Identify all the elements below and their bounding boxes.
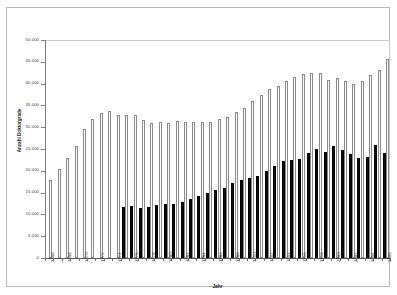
bar-total — [352, 84, 355, 258]
bar-group — [138, 40, 146, 258]
bar-total — [327, 80, 330, 258]
x-axis-tick — [247, 258, 248, 261]
y-axis-tick-label: 20.000 — [9, 168, 39, 172]
x-axis-tick — [112, 258, 113, 261]
x-axis-tick — [171, 258, 172, 261]
x-axis-tick — [272, 258, 273, 261]
x-axis-tick — [121, 258, 122, 261]
bar-total — [369, 75, 372, 258]
x-axis-tick — [154, 258, 155, 261]
x-axis-tick — [365, 258, 366, 261]
bar-group — [154, 40, 162, 258]
bar-group — [53, 40, 61, 258]
bar-group — [121, 40, 129, 258]
x-axis-tick — [306, 258, 307, 261]
plot-area — [45, 40, 390, 258]
x-axis-tick — [104, 258, 105, 261]
bar-total — [268, 89, 271, 258]
bar-total — [302, 74, 305, 258]
bar-total — [243, 108, 246, 258]
x-axis-tick — [281, 258, 282, 261]
bar-group — [348, 40, 356, 258]
bar-total — [142, 120, 145, 258]
bar-total — [201, 122, 204, 258]
y-axis-line — [45, 40, 46, 259]
bar-group — [79, 40, 87, 258]
bar-total — [235, 112, 238, 258]
bar-total — [218, 119, 221, 258]
x-axis-tick — [289, 258, 290, 261]
x-axis-tick — [222, 258, 223, 261]
x-axis-tick — [70, 258, 71, 261]
x-axis-tick — [297, 258, 298, 261]
y-axis-tick-label: 45.000 — [9, 59, 39, 63]
bar-total — [100, 113, 103, 258]
y-axis-tick-label-wrap: 30.000 — [7, 125, 39, 131]
x-axis-tick — [314, 258, 315, 261]
y-axis-tick-label: 30.000 — [9, 125, 39, 129]
y-axis-tick-label: 50.000 — [9, 38, 39, 42]
x-axis-tick — [239, 258, 240, 261]
bar-group — [331, 40, 339, 258]
bar-group — [356, 40, 364, 258]
bar-total — [260, 95, 263, 259]
bar-group — [373, 40, 381, 258]
bar-total — [336, 78, 339, 258]
bar-group — [255, 40, 263, 258]
bar-group — [323, 40, 331, 258]
y-axis-tick-label-wrap: 15.000 — [7, 190, 39, 196]
x-axis-tick — [356, 258, 357, 261]
x-axis-tick — [382, 258, 383, 261]
bar-total — [378, 70, 381, 258]
bar-group — [163, 40, 171, 258]
y-axis-tick-label-wrap: 50.000 — [7, 38, 39, 44]
bar-total — [91, 119, 94, 258]
x-axis-tick — [87, 258, 88, 261]
bar-group — [247, 40, 255, 258]
x-axis-tick — [180, 258, 181, 261]
x-axis-tick — [62, 258, 63, 261]
bar-group — [188, 40, 196, 258]
x-axis-tick — [373, 258, 374, 261]
bar-group — [205, 40, 213, 258]
bar-total — [293, 77, 296, 258]
x-axis-tick — [188, 258, 189, 261]
bar-total — [125, 115, 128, 258]
bar-total — [226, 117, 229, 258]
figure-frame: Anzahl Doktorgrade 50.00045.00040.00035.… — [6, 7, 390, 287]
bar-total — [66, 158, 69, 258]
y-axis-tick-label-wrap: 10.000 — [7, 212, 39, 218]
x-axis-tick — [348, 258, 349, 261]
bar-total — [192, 122, 195, 258]
x-axis-tick — [163, 258, 164, 261]
bar-group — [87, 40, 95, 258]
bar-total — [75, 146, 78, 258]
bar-group — [281, 40, 289, 258]
y-axis-tick-label: 10.000 — [9, 212, 39, 216]
y-axis-tick-label: 25.000 — [9, 147, 39, 151]
bar-total — [344, 81, 347, 258]
bar-group — [45, 40, 53, 258]
bar-group — [146, 40, 154, 258]
bar-total — [310, 73, 313, 258]
y-axis-tick-label-wrap: 25.000 — [7, 147, 39, 153]
y-axis-tick-label-wrap: 40.000 — [7, 81, 39, 87]
x-axis-tick — [340, 258, 341, 261]
bar-group — [264, 40, 272, 258]
chart-screenshot: Anzahl Doktorgrade 50.00045.00040.00035.… — [0, 0, 397, 295]
bar-group — [213, 40, 221, 258]
x-axis-tick — [95, 258, 96, 261]
bar-group — [95, 40, 103, 258]
bar-group — [239, 40, 247, 258]
bar-total — [83, 129, 86, 258]
bar-group — [104, 40, 112, 258]
bar-group — [382, 40, 390, 258]
x-axis-tick — [45, 258, 46, 261]
bar-group — [314, 40, 322, 258]
y-axis-tick-label-wrap: 0 — [7, 256, 39, 262]
x-axis-tick — [79, 258, 80, 261]
x-axis-tick — [196, 258, 197, 261]
x-axis-tick — [323, 258, 324, 261]
bar-group — [297, 40, 305, 258]
bar-total — [49, 180, 52, 258]
